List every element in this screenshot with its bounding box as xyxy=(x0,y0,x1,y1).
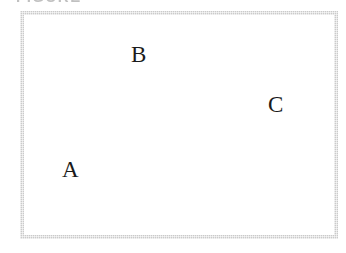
region-interior: A B C xyxy=(24,15,334,235)
figure-canvas: FIGURE A B C xyxy=(0,0,346,253)
clipped-header-text: FIGURE xyxy=(16,0,100,5)
region-label-c: C xyxy=(268,93,283,116)
region-label-b: B xyxy=(131,43,146,66)
region-label-a: A xyxy=(62,158,79,181)
